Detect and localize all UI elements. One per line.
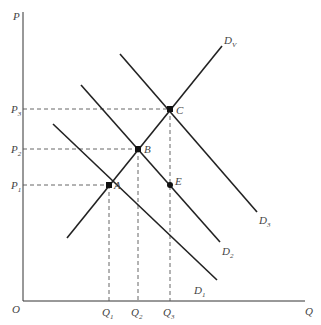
diagram-svg: P Q O P3 P2 P1 Q1 Q2 Q3 D1 D2 D3 DV A B … bbox=[0, 0, 321, 325]
price-label-p2: P2 bbox=[10, 143, 22, 158]
point-label-a: A bbox=[113, 179, 121, 191]
price-label-p1: P1 bbox=[10, 179, 21, 194]
curve-label-d2: D2 bbox=[221, 245, 234, 260]
point-a-marker bbox=[106, 182, 112, 188]
point-label-b: B bbox=[144, 143, 151, 155]
point-label-e: E bbox=[174, 175, 182, 187]
point-c-marker bbox=[167, 106, 173, 112]
quantity-label-q2: Q2 bbox=[131, 306, 143, 321]
demand-diagram: P Q O P3 P2 P1 Q1 Q2 Q3 D1 D2 D3 DV A B … bbox=[0, 0, 321, 325]
origin-label: O bbox=[12, 303, 20, 315]
quantity-label-q3: Q3 bbox=[163, 306, 175, 321]
point-b-marker bbox=[135, 146, 141, 152]
point-e-marker bbox=[167, 182, 173, 188]
price-label-p3: P3 bbox=[10, 103, 22, 118]
curve-label-d1: D1 bbox=[193, 284, 205, 299]
quantity-label-q1: Q1 bbox=[102, 306, 113, 321]
curve-label-dv: DV bbox=[223, 34, 237, 49]
curve-label-d3: D3 bbox=[258, 214, 271, 229]
y-axis-label: P bbox=[12, 10, 20, 22]
point-label-c: C bbox=[176, 104, 184, 116]
x-axis-label: Q bbox=[305, 305, 313, 317]
curve-d3 bbox=[120, 54, 257, 212]
curve-dv bbox=[67, 46, 222, 238]
